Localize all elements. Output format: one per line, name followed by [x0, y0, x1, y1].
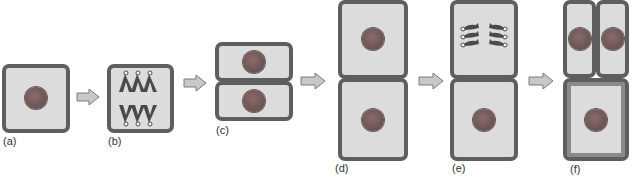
cell-e-top	[450, 0, 518, 79]
nucleus	[243, 90, 265, 112]
nucleus	[362, 109, 384, 131]
stage-label-b: (b)	[108, 136, 121, 147]
nucleus	[602, 28, 624, 50]
cell-a	[2, 64, 70, 133]
right-arrow-icon	[183, 74, 207, 92]
cell-b	[107, 64, 174, 133]
cell-f-bottom	[563, 78, 629, 161]
stage-label-c: (c)	[216, 125, 229, 136]
cell-e-bottom	[450, 78, 518, 161]
right-arrow-icon	[528, 72, 554, 90]
nucleus	[569, 28, 591, 50]
stage-label-a: (a)	[3, 136, 16, 147]
stage-label-d: (d)	[335, 163, 348, 174]
chromosomes-anaphase	[111, 68, 170, 129]
nucleus	[243, 51, 265, 73]
right-arrow-icon	[300, 72, 326, 90]
cell-c-bottom	[215, 81, 293, 121]
nucleus	[585, 109, 607, 131]
cell-f-top-left	[563, 0, 596, 78]
right-arrow-icon	[418, 72, 444, 90]
stage-label-e: (e)	[452, 163, 465, 174]
right-arrow-icon	[76, 88, 100, 106]
nucleus	[362, 28, 384, 50]
nucleus	[473, 109, 495, 131]
nucleus	[25, 87, 47, 109]
cell-d-top	[338, 0, 408, 79]
chromosomes-metaphase	[454, 4, 514, 75]
cell-c-top	[215, 42, 293, 82]
cell-division-diagram: (a) (b)	[0, 0, 632, 179]
stage-label-f: (f)	[570, 164, 580, 175]
cell-f-top-right	[596, 0, 629, 78]
cell-d-bottom	[338, 78, 408, 161]
